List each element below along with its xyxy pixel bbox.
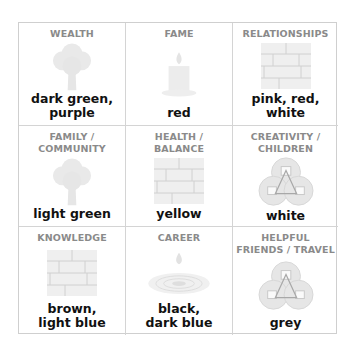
cell-health-balance: HEALTH / BALANCE yellow [126,126,233,227]
cell-title: FAME [164,28,193,40]
cell-colors: grey [270,316,302,330]
brick-wall-icon [261,43,311,89]
cell-knowledge: KNOWLEDGE brown, light blue [19,227,126,335]
brick-wall-icon [154,158,204,204]
cell-title: FAMILY / COMMUNITY [38,131,105,155]
cell-title: CAREER [158,232,201,244]
cell-colors: yellow [156,207,201,221]
cell-title: RELATIONSHIPS [243,28,329,40]
cell-creativity-children: CREATIVITY / CHILDREN white [233,126,338,227]
tree-icon [50,155,94,207]
cell-helpful-friends-travel: HELPFUL FRIENDS / TRAVEL grey [233,227,338,335]
cell-colors: white [266,209,305,223]
cell-family-community: FAMILY / COMMUNITY light green [19,126,126,227]
cell-title: KNOWLEDGE [37,232,106,244]
cell-colors: brown, light blue [38,302,105,330]
cell-title: HELPFUL FRIENDS / TRAVEL [236,232,335,256]
cell-colors: red [167,106,191,120]
cell-colors: dark green, purple [31,92,113,120]
water-drop-icon [144,249,214,297]
cell-career: CAREER black, dark blue [126,227,233,335]
cell-colors: light green [33,207,111,221]
cell-colors: pink, red, white [233,92,338,120]
brick-wall-icon [47,250,97,296]
cell-title: HEALTH / BALANCE [154,131,204,155]
cell-fame: FAME red [126,23,233,126]
cell-wealth: WEALTH dark green, purple [19,23,126,126]
tree-icon [50,40,94,92]
coins-icon [257,259,315,313]
cell-colors: black, dark blue [146,302,213,330]
cell-relationships: RELATIONSHIPS pink, red, white [233,23,338,126]
bagua-grid: WEALTH dark green, purple FAME red RELAT… [18,22,337,334]
coins-icon [257,155,315,209]
cell-title: WEALTH [50,28,94,40]
candle-icon [153,47,205,99]
cell-title: CREATIVITY / CHILDREN [251,131,321,155]
